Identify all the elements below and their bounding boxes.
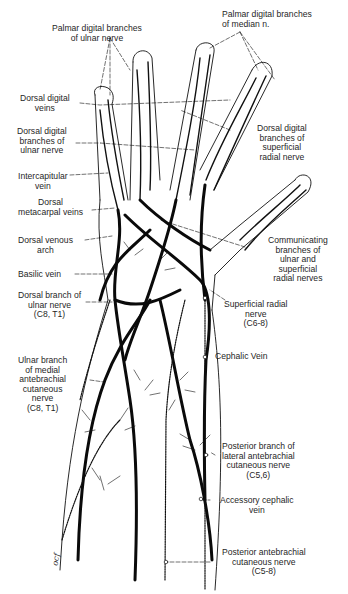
label-dorsal-branch-ulnar-nerve: Dorsal branch of ulnar nerve (C8, T1)	[18, 291, 81, 320]
label-dorsal-digital-veins: Dorsal digital veins	[20, 94, 70, 113]
fine-branches	[82, 242, 210, 490]
major-veins	[78, 185, 212, 580]
label-dorsal-digital-branches-ulnar: Dorsal digital branches of ulnar nerve	[17, 127, 67, 156]
label-dorsal-venous-arch: Dorsal venous arch	[18, 236, 73, 255]
label-posterior-branch-lateral-antebrachial: Posterior branch of lateral antebrachial…	[222, 442, 295, 480]
label-palmar-digital-median: Palmar digital branches of median n.	[222, 10, 312, 29]
label-basilic-vein: Basilic vein	[18, 270, 61, 280]
anchor-dots	[164, 296, 208, 564]
label-palmar-digital-ulnar: Palmar digital branches of ulnar nerve	[52, 24, 142, 43]
label-communicating-branches: Communicating branches of ulnar and supe…	[268, 236, 328, 284]
label-accessory-cephalic-vein: Accessory cephalic vein	[220, 496, 294, 515]
label-posterior-antebrachial-cutaneous: Posterior antebrachial cutaneous nerve (…	[222, 548, 306, 577]
label-intercapitular-vein: Intercapitular vein	[18, 172, 68, 191]
label-cephalic-vein: Cephalic Vein	[215, 352, 268, 362]
label-superficial-radial-nerve: Superficial radial nerve (C6-8)	[224, 300, 288, 329]
label-dorsal-digital-branches-radial: Dorsal digital branches of superficial r…	[257, 124, 307, 162]
label-ulnar-branch-medial-antebrachial: Ulnar branch of medial antebrachial cuta…	[18, 356, 67, 414]
label-dorsal-metacarpal-veins: Dorsal metacarpal veins	[18, 198, 83, 217]
